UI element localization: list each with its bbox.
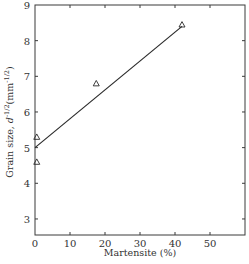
regression-line bbox=[35, 26, 182, 147]
plot-border bbox=[35, 5, 245, 235]
x-tick-label: 10 bbox=[64, 238, 77, 249]
y-tick-label: 8 bbox=[24, 36, 30, 47]
y-tick-label: 4 bbox=[24, 178, 30, 189]
grain-size-vs-martensite-chart: 01020304050 3456789 Martensite (%) Grain… bbox=[0, 0, 249, 264]
x-tick-label: 0 bbox=[32, 238, 38, 249]
y-tick-label: 9 bbox=[24, 0, 30, 11]
y-axis-label-exp2: -1/2 bbox=[3, 70, 11, 83]
y-axis-label: Grain size, d-1/2(mm-1/2) bbox=[3, 66, 15, 177]
fit-line bbox=[35, 26, 182, 147]
y-tick-label: 6 bbox=[24, 107, 30, 118]
y-axis-label-unit-close: ) bbox=[4, 66, 15, 70]
y-tick-label: 5 bbox=[24, 143, 30, 154]
y-axis-label-unit-open: (mm bbox=[4, 83, 15, 105]
x-axis-label: Martensite (%) bbox=[104, 247, 176, 258]
triangle-marker-icon bbox=[179, 22, 185, 27]
x-tick-label: 50 bbox=[204, 238, 217, 249]
triangle-marker-icon bbox=[93, 80, 99, 85]
y-axis-ticks: 3456789 bbox=[24, 0, 245, 225]
y-axis-label-main: Grain size, bbox=[4, 123, 15, 178]
y-tick-label: 7 bbox=[24, 71, 30, 82]
y-axis-label-exp1: -1/2 bbox=[3, 104, 11, 117]
y-tick-label: 3 bbox=[24, 214, 30, 225]
plot-frame bbox=[35, 5, 245, 235]
